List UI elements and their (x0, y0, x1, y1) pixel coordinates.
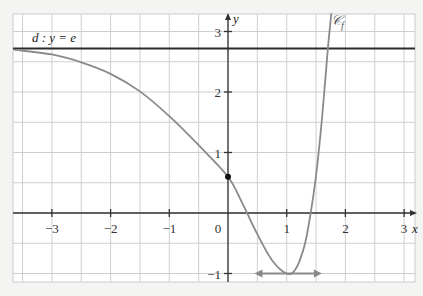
x-axis-label: x (411, 221, 418, 236)
chart-container: xy −3−2−10123−1123 d : y = e 𝒞f (0, 0, 423, 296)
y-tick-label: 2 (215, 85, 222, 100)
function-plot: xy −3−2−10123−1123 d : y = e 𝒞f (0, 0, 423, 296)
x-tick-label: −2 (104, 221, 118, 236)
x-tick-label: −1 (162, 221, 176, 236)
x-tick-label: 0 (215, 221, 222, 236)
y-axis-label: y (231, 11, 239, 26)
x-tick-label: 3 (401, 221, 408, 236)
line-d-label: d : y = e (32, 30, 76, 45)
y-tick-label: 3 (215, 25, 222, 40)
x-tick-label: −3 (45, 221, 59, 236)
point-marker (225, 174, 231, 180)
x-tick-label: 1 (283, 221, 290, 236)
y-tick-label: −1 (207, 267, 221, 282)
x-tick-label: 2 (342, 221, 349, 236)
y-tick-label: 1 (215, 146, 222, 161)
